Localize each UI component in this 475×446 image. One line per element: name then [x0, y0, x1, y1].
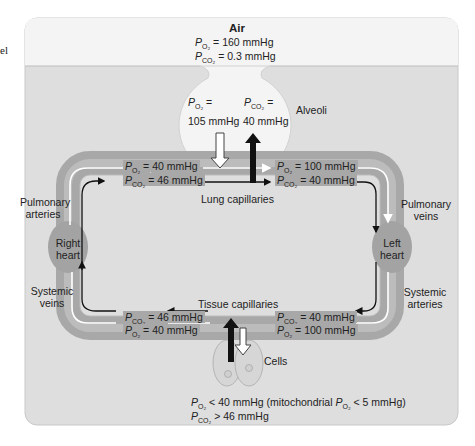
air-pco2: PCO₂ = 0.3 mmHg — [195, 50, 276, 62]
o2-subscript: O₂ — [132, 167, 140, 174]
line2: heart — [48, 249, 88, 261]
co2-subscript: CO₂ — [284, 181, 297, 188]
p-symbol: P — [188, 96, 195, 108]
systemic-veins-label: Systemic veins — [30, 285, 74, 309]
tissue-right-po2: PO₂ = 100 mmHg — [275, 324, 358, 336]
o2-subscript: O₂ — [198, 403, 206, 410]
line2: veins — [400, 210, 452, 222]
gas-exchange-diagram — [0, 0, 475, 446]
p-symbol: P — [277, 324, 284, 336]
p-symbol: P — [191, 396, 198, 408]
line2: arteries — [20, 208, 66, 220]
co2-subscript: CO₂ — [198, 417, 211, 424]
tissue-left-pco2: PCO₂ = 46 mmHg — [123, 311, 205, 323]
o2-subscript: O₂ — [342, 403, 350, 410]
p-symbol: P — [277, 160, 284, 172]
value: = 40 mmHg — [300, 174, 355, 186]
pulmonary-veins-label: Pulmonary veins — [400, 198, 452, 222]
value: = 100 mmHg — [295, 160, 355, 172]
line1: Systemic — [30, 285, 74, 297]
p-symbol: P — [125, 324, 132, 336]
lung-right-pco2: PCO₂ = 40 mmHg — [275, 174, 357, 186]
value: = 100 mmHg — [295, 324, 355, 336]
co2-subscript: CO₂ — [202, 57, 215, 64]
value: > 46 mmHg — [214, 410, 269, 422]
cells-label: Cells — [264, 355, 287, 367]
p-symbol: P — [277, 174, 284, 186]
p-symbol: P — [191, 410, 198, 422]
value: = 40 mmHg — [300, 311, 355, 323]
line2: heart — [372, 249, 412, 261]
line2: arteries — [400, 298, 450, 310]
pulmonary-arteries-label: Pulmonary arteries — [20, 196, 66, 220]
line1: Systemic — [400, 286, 450, 298]
air-pco2-value: = 0.3 mmHg — [218, 50, 275, 62]
cells-pco2: PCO₂ > 46 mmHg — [191, 410, 269, 422]
air-po2: PO₂ = 160 mmHg — [195, 36, 274, 48]
value: = 46 mmHg — [148, 174, 203, 186]
equals: = — [206, 96, 212, 108]
co2-subscript: CO₂ — [132, 181, 145, 188]
right-heart-label: Right heart — [48, 237, 88, 261]
value: = 46 mmHg — [148, 311, 203, 323]
value: < 40 mmHg (mitochondrial — [209, 396, 335, 408]
lung-left-po2: PO₂ = 40 mmHg — [123, 160, 200, 172]
alveoli-label: Alveoli — [296, 104, 327, 116]
lung-left-pco2: PCO₂ = 46 mmHg — [123, 174, 205, 186]
o2-subscript: O₂ — [195, 103, 203, 110]
line1: Pulmonary — [400, 198, 452, 210]
equals: = — [267, 96, 273, 108]
alveolar-po2-value: 105 mmHg — [188, 115, 239, 127]
air-po2-value: = 160 mmHg — [213, 36, 273, 48]
line1: Right — [48, 237, 88, 249]
lung-capillaries-label: Lung capillaries — [201, 193, 274, 205]
p-symbol: P — [195, 50, 202, 62]
value: = 40 mmHg — [143, 160, 198, 172]
o2-subscript: O₂ — [284, 167, 292, 174]
lung-right-po2: PO₂ = 100 mmHg — [275, 160, 358, 172]
alveolar-pco2-label: PCO₂ = — [244, 96, 273, 108]
o2-subscript: O₂ — [132, 331, 140, 338]
p-symbol: P — [125, 160, 132, 172]
tissue-capillaries-label: Tissue capillaries — [198, 298, 278, 310]
line1: Left — [372, 237, 412, 249]
systemic-arteries-label: Systemic arteries — [400, 286, 450, 310]
p-symbol: P — [125, 311, 132, 323]
p-symbol: P — [195, 36, 202, 48]
alveolar-pco2-value: 40 mmHg — [243, 115, 289, 127]
left-heart-label: Left heart — [372, 237, 412, 261]
mitochondrial-value: < 5 mmHg) — [354, 396, 406, 408]
air-title: Air — [215, 22, 259, 34]
value: = 40 mmHg — [143, 324, 198, 336]
tissue-right-pco2: PCO₂ = 40 mmHg — [275, 311, 357, 323]
alveolar-po2-label: PO₂ = — [188, 96, 212, 108]
p-symbol: P — [277, 311, 284, 323]
line1: Pulmonary — [20, 196, 66, 208]
co2-subscript: CO₂ — [251, 103, 264, 110]
line2: veins — [30, 297, 74, 309]
cells-po2: PO₂ < 40 mmHg (mitochondrial PO₂ < 5 mmH… — [191, 396, 406, 408]
p-symbol: P — [125, 174, 132, 186]
p-symbol: P — [244, 96, 251, 108]
o2-subscript: O₂ — [202, 43, 210, 50]
tissue-left-po2: PO₂ = 40 mmHg — [123, 324, 200, 336]
o2-subscript: O₂ — [284, 331, 292, 338]
